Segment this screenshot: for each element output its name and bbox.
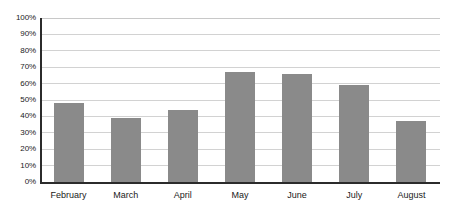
x-tick-label: June bbox=[269, 189, 326, 201]
y-tick-label: 60% bbox=[0, 80, 36, 88]
y-tick-label: 50% bbox=[0, 96, 36, 104]
chart-bars bbox=[40, 0, 440, 221]
x-tick-label: May bbox=[211, 189, 268, 201]
y-tick-label: 0% bbox=[0, 178, 36, 186]
bar bbox=[282, 74, 312, 182]
y-tick-label: 20% bbox=[0, 145, 36, 153]
y-axis-tick-labels: 0%10%20%30%40%50%60%70%80%90%100% bbox=[0, 0, 36, 221]
y-tick-label: 10% bbox=[0, 162, 36, 170]
y-tick-label: 30% bbox=[0, 129, 36, 137]
x-axis-tick-labels: FebruaryMarchAprilMayJuneJulyAugust bbox=[40, 189, 440, 209]
y-tick-label: 100% bbox=[0, 14, 36, 22]
y-tick-label: 40% bbox=[0, 112, 36, 120]
y-tick-label: 80% bbox=[0, 47, 36, 55]
bar bbox=[396, 121, 426, 182]
x-tick-label: April bbox=[154, 189, 211, 201]
bar bbox=[111, 118, 141, 182]
x-tick-label: February bbox=[40, 189, 97, 201]
y-tick-label: 70% bbox=[0, 63, 36, 71]
y-tick-label: 90% bbox=[0, 30, 36, 38]
bar-chart: 0%10%20%30%40%50%60%70%80%90%100% Februa… bbox=[0, 0, 452, 221]
bar bbox=[168, 110, 198, 182]
bar bbox=[54, 103, 84, 182]
bar bbox=[225, 72, 255, 182]
bar bbox=[339, 85, 369, 182]
x-tick-label: July bbox=[326, 189, 383, 201]
x-tick-label: August bbox=[383, 189, 440, 201]
x-tick-label: March bbox=[97, 189, 154, 201]
